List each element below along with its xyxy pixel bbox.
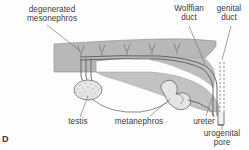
label-degenerated-mesonephros-line2: mesonephros xyxy=(12,14,92,23)
label-genital-duct: genital duct xyxy=(210,4,248,23)
genital-duct-dashed xyxy=(220,62,224,112)
sperm-duct-arc xyxy=(92,98,172,112)
label-metanephros: metanephros xyxy=(104,117,174,126)
label-testis-line1: testis xyxy=(55,117,101,126)
label-ureter: ureter xyxy=(184,117,224,126)
label-genital-duct-line2: duct xyxy=(210,13,248,22)
label-urogenital-pore-line2: pore xyxy=(198,138,246,147)
figure-panel: degenerated mesonephros Wolffian duct ge… xyxy=(0,0,249,150)
label-wolffian-duct: Wolffian duct xyxy=(163,4,215,23)
panel-letter: D xyxy=(2,134,9,144)
label-ureter-line1: ureter xyxy=(184,117,224,126)
label-metanephros-line1: metanephros xyxy=(104,117,174,126)
label-urogenital-pore: urogenital pore xyxy=(198,129,246,148)
label-testis: testis xyxy=(55,117,101,126)
leader-metanephros xyxy=(150,99,170,116)
label-degenerated-mesonephros: degenerated mesonephros xyxy=(12,5,92,24)
label-urogenital-pore-line1: urogenital xyxy=(198,129,246,138)
label-degenerated-mesonephros-line1: degenerated xyxy=(12,5,92,14)
label-genital-duct-line1: genital xyxy=(210,4,248,13)
leader-genital-duct xyxy=(222,26,231,60)
label-wolffian-duct-line1: Wolffian xyxy=(163,4,215,13)
label-wolffian-duct-line2: duct xyxy=(163,13,215,22)
